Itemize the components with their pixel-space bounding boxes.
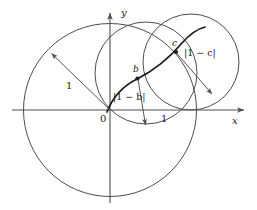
point-c-label: c: [172, 39, 177, 48]
unit-tick-label: 1: [161, 114, 167, 124]
radius-arrow-circle-c: [177, 53, 213, 94]
diagram-canvas: y x 0 1 1 b c |1 − b| |1 − c|: [0, 0, 257, 210]
origin-label: 0: [100, 114, 106, 124]
x-axis-label: x: [232, 116, 238, 126]
radius-arrow-circle-b: [138, 79, 146, 125]
diagram-svg: [0, 0, 257, 210]
radius-arrow-unit-circle: [52, 54, 110, 110]
distance-c-label: |1 − c|: [184, 48, 216, 58]
point-b-label: b: [133, 65, 139, 74]
radius-label-unit-circle: 1: [66, 81, 72, 91]
distance-b-label: |1 − b|: [113, 92, 146, 102]
y-axis-label: y: [121, 8, 127, 18]
axis-group: [12, 13, 244, 203]
point-b-marker: [135, 76, 139, 80]
circle-c: [143, 14, 239, 110]
